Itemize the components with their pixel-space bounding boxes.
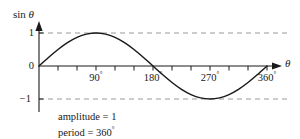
plot-canvas [0,0,300,139]
degree-symbol: ° [100,70,103,78]
x-tick-label-360-value: 360 [258,72,274,83]
x-tick-label-180-value: 180 [144,72,160,83]
y-tick-label-zero: 0 [20,61,34,72]
x-tick-label-90: 90° [76,71,116,83]
y-axis-label-text: sin [13,8,26,20]
x-axis-ticks [58,66,267,71]
x-axis-arrowhead [272,62,282,69]
degree-symbol: ° [273,70,276,78]
x-tick-label-360: 360° [247,71,287,83]
degree-symbol: ° [216,70,219,78]
x-tick-label-270: 270° [190,71,230,83]
x-tick-label-180: 180° [133,71,173,83]
annotation-block: amplitude = 1 period = 360° [58,110,116,139]
sine-curve-figure: sin θ θ 1 0 −1 90° 180° 270° 360° amplit… [0,0,300,139]
annotation-period-text: period = 360 [58,127,112,138]
y-axis-label-theta: θ [29,8,34,20]
y-axis-label: sin θ [13,9,34,20]
x-tick-label-270-value: 270 [201,72,217,83]
x-tick-label-90-value: 90 [89,72,100,83]
degree-symbol: ° [159,70,162,78]
annotation-amplitude: amplitude = 1 [58,110,116,123]
annotation-period: period = 360° [58,123,116,139]
y-axis-arrowhead [35,21,42,31]
y-tick-label-one: 1 [20,28,34,39]
degree-symbol: ° [112,125,115,133]
x-axis-label: θ [285,58,290,69]
y-tick-label-minus-one: −1 [17,94,31,105]
